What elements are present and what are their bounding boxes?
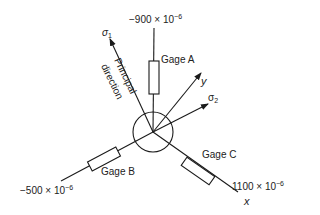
sigma2-arrow [153, 104, 208, 132]
gage-a-strain-label: −900 × 10−6 [129, 13, 182, 25]
gage-c-label: Gage C [202, 150, 236, 160]
sigma2-label: σ2 [208, 93, 218, 104]
gage-b-strain-label: −500 × 10−6 [20, 184, 73, 196]
gage-c-element [181, 157, 215, 185]
sigma1-label: σ1 [102, 28, 112, 39]
gage-c-strain-label: 1100 × 10−6 [232, 180, 284, 192]
gage-a-element [149, 61, 159, 94]
y-axis-arrow [153, 73, 201, 132]
gage-a-label: Gage A [161, 55, 194, 65]
gage-b-label: Gage B [101, 167, 135, 177]
gage-c-axis [153, 132, 238, 192]
y-axis-label: y [201, 76, 207, 87]
x-axis-label: x [244, 196, 250, 207]
